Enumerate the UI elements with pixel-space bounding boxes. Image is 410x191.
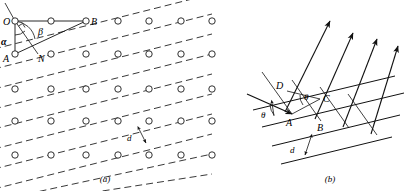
- bragg-diffraction-figure: O B A N α β d (a): [0, 0, 410, 191]
- atom: [115, 86, 121, 92]
- atom: [115, 152, 121, 158]
- label-alpha-a: α: [1, 36, 7, 47]
- angle-marks-b: [270, 95, 303, 116]
- atom: [209, 118, 215, 124]
- plane-line: [18, 154, 212, 191]
- atom: [178, 118, 184, 124]
- label-beta-a: β: [37, 26, 43, 37]
- atom: [178, 18, 184, 24]
- angle-theta-path-arc: [300, 95, 303, 105]
- segment-AB: [15, 21, 86, 54]
- atom: [178, 86, 184, 92]
- atom: [146, 51, 152, 57]
- label-B-a: B: [91, 16, 97, 27]
- atom: [12, 18, 18, 24]
- panel-b: D C A B θ θ d (b): [247, 21, 404, 184]
- atom: [115, 51, 121, 57]
- atom: [48, 18, 54, 24]
- atom: [12, 86, 18, 92]
- atom: [146, 118, 152, 124]
- atom: [209, 152, 215, 158]
- label-N-a: N: [37, 53, 46, 64]
- label-theta-path: θ: [304, 92, 309, 102]
- label-A-b: A: [285, 117, 293, 128]
- figure-canvas: O B A N α β d (a): [0, 0, 410, 191]
- atom: [178, 152, 184, 158]
- label-C-b: C: [323, 93, 330, 104]
- angle-beta-arc: [15, 21, 35, 39]
- spacing-arrow: [305, 137, 311, 155]
- label-A-a: A: [2, 53, 10, 64]
- atom: [178, 51, 184, 57]
- spacing-indicator-b: [305, 137, 311, 155]
- reflected-ray: [371, 46, 398, 134]
- atom: [83, 51, 89, 57]
- label-theta-incident: θ: [261, 110, 266, 120]
- atom: [48, 152, 54, 158]
- bragg-plane: [281, 137, 392, 164]
- plane-line: [70, 174, 212, 191]
- lattice-plane-lines: [0, 0, 212, 191]
- label-d-b: d: [290, 145, 295, 155]
- panel-a: O B A N α β d (a): [0, 0, 215, 191]
- atom: [83, 18, 89, 24]
- atom: [48, 118, 54, 124]
- atom: [83, 86, 89, 92]
- atom: [209, 51, 215, 57]
- atom: [209, 18, 215, 24]
- label-O-a: O: [3, 16, 10, 27]
- label-d-a: d: [127, 133, 132, 143]
- atom: [83, 152, 89, 158]
- atom: [48, 51, 54, 57]
- atom: [83, 118, 89, 124]
- label-D-b: D: [275, 80, 284, 91]
- atom: [115, 118, 121, 124]
- atom: [146, 152, 152, 158]
- caption-b: (b): [325, 174, 336, 184]
- atom: [48, 86, 54, 92]
- atom: [209, 86, 215, 92]
- caption-a: (a): [100, 174, 111, 184]
- atom: [12, 118, 18, 124]
- atom: [146, 18, 152, 24]
- atom: [146, 86, 152, 92]
- atom: [115, 18, 121, 24]
- atom: [12, 51, 18, 57]
- label-B-b: B: [317, 122, 323, 133]
- atom: [12, 152, 18, 158]
- reflected-ray: [343, 39, 377, 127]
